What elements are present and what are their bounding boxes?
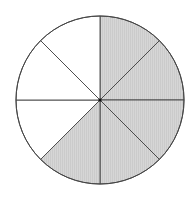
center-point bbox=[98, 98, 101, 101]
fraction-circle-diagram bbox=[0, 0, 194, 197]
